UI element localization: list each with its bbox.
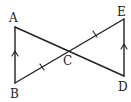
geometry-diagram: A B C D E	[0, 0, 131, 102]
point-label-b: B	[10, 87, 19, 101]
segment-be	[15, 19, 124, 83]
point-label-c: C	[63, 54, 72, 68]
point-label-a: A	[8, 11, 18, 25]
point-label-d: D	[118, 80, 128, 94]
point-label-e: E	[117, 5, 126, 19]
